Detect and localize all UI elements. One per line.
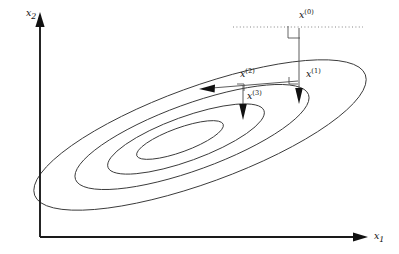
x-axis-label-sub: 1 <box>379 235 384 244</box>
point-label-x2: x(2) <box>240 69 255 79</box>
contour-diagram-svg <box>0 0 399 254</box>
x-axis-label: x1 <box>374 231 384 244</box>
contour-group <box>18 30 382 241</box>
right-angle-marker-x1 <box>289 77 298 84</box>
path-arrowhead-x2 <box>199 84 215 92</box>
y-axis-label-sub: 2 <box>31 12 36 21</box>
point-label-x2-sup: (2) <box>245 67 254 75</box>
x-axis-arrowhead <box>353 232 368 241</box>
point-label-x3: x(3) <box>247 91 262 101</box>
contour-ellipse-inner <box>133 113 228 167</box>
y-axis-arrowhead <box>35 12 44 27</box>
axes-group <box>35 12 368 242</box>
right-angle-marker-x0 <box>288 26 300 38</box>
point-label-x1-sup: (1) <box>311 67 320 75</box>
point-label-x0-sup: (0) <box>304 8 313 16</box>
point-label-x3-sup: (3) <box>252 89 261 97</box>
point-label-x0: x(0) <box>299 10 314 20</box>
figure-canvas: x2 x1 x(0) x(1) x(2) x(3) <box>0 0 399 254</box>
contour-ellipse-outer <box>18 30 382 241</box>
path-arrowhead-x3 <box>239 104 247 120</box>
path-arrowhead-x1 <box>295 88 303 104</box>
point-label-x1: x(1) <box>306 69 321 79</box>
y-axis-label: x2 <box>26 8 36 21</box>
